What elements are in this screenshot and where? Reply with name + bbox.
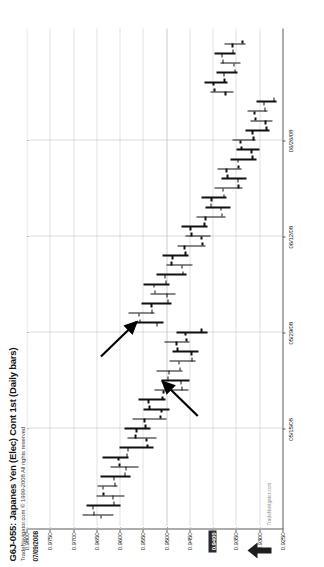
ohlc-close-tick [93, 511, 95, 515]
ohlc-close-tick [154, 290, 156, 294]
ohlc-open-tick [112, 495, 114, 499]
ohlc-close-tick [232, 49, 234, 53]
ohlc-open-tick [180, 380, 182, 384]
price-gridline [259, 28, 260, 528]
date-axis-tick [282, 428, 285, 429]
price-gridline [119, 28, 120, 528]
date-gridline [26, 331, 282, 332]
ohlc-bar [143, 408, 169, 410]
ohlc-open-tick [223, 72, 225, 76]
price-axis-label: 0.9350 [232, 532, 239, 550]
ohlc-close-tick [176, 347, 178, 351]
price-axis-label: 0.9800 [23, 532, 30, 550]
ohlc-bar [250, 120, 271, 122]
watermark-label: TradeNavigator.com [266, 482, 271, 525]
price-gridline [49, 28, 50, 528]
plot-area[interactable] [26, 28, 283, 529]
price-axis[interactable]: 0.98000.97500.97000.96500.96000.95500.95… [26, 529, 282, 567]
date-axis-tick [282, 140, 285, 141]
chart-copyright: TradeNavigator.com © 1999-2008 All right… [18, 261, 26, 561]
ohlc-bar [177, 245, 205, 247]
ohlc-bar [166, 264, 192, 266]
date-axis-label: 06/26/08 [286, 129, 293, 152]
ohlc-close-tick [144, 424, 146, 428]
ohlc-bar [102, 456, 128, 458]
price-axis-label: 0.9650 [92, 532, 99, 550]
price-axis-label: 0.9700 [69, 532, 76, 550]
ohlc-open-tick [225, 168, 227, 172]
ohlc-close-tick [113, 501, 115, 505]
date-axis[interactable]: 05/15/0805/29/0806/12/0806/26/08 [282, 29, 308, 529]
ohlc-open-tick [92, 505, 94, 509]
ohlc-open-tick [162, 390, 164, 394]
price-gridline [142, 28, 143, 528]
ohlc-open-tick [125, 466, 127, 470]
ohlc-open-tick [100, 515, 102, 519]
ohlc-close-tick [148, 405, 150, 409]
ohlc-open-tick [175, 341, 177, 345]
ohlc-bar [154, 389, 188, 391]
ohlc-close-tick [159, 415, 161, 419]
ohlc-open-tick [253, 111, 255, 115]
ohlc-close-tick [264, 107, 266, 111]
ohlc-open-tick [220, 207, 222, 211]
ohlc-open-tick [178, 361, 180, 365]
ohlc-close-tick [252, 136, 254, 140]
date-axis-tick [282, 332, 285, 333]
ohlc-close-tick [167, 299, 169, 303]
ohlc-close-tick [200, 328, 202, 332]
price-axis-label: 0.9450 [185, 532, 192, 550]
up-arrow-icon[interactable] [246, 539, 272, 561]
ohlc-bar [236, 148, 258, 150]
ohlc-close-tick [234, 69, 236, 73]
ohlc-bar [82, 514, 114, 516]
ohlc-close-tick [241, 40, 243, 44]
ohlc-bar [185, 235, 210, 237]
ohlc-open-tick [251, 130, 253, 134]
ohlc-close-tick [165, 280, 167, 284]
ohlc-open-tick [147, 399, 149, 403]
ohlc-open-tick [231, 43, 233, 47]
ohlc-close-tick [181, 386, 183, 390]
ohlc-bar [96, 495, 124, 497]
ohlc-close-tick [124, 472, 126, 476]
date-gridline [26, 235, 282, 236]
ohlc-close-tick [251, 155, 253, 159]
ohlc-open-tick [145, 438, 147, 442]
ohlc-close-tick [221, 213, 223, 217]
ohlc-open-tick [127, 447, 129, 451]
ohlc-close-tick [170, 261, 172, 265]
ohlc-close-tick [167, 376, 169, 380]
ohlc-open-tick [237, 178, 239, 182]
ohlc-open-tick [168, 370, 170, 374]
ohlc-close-tick [102, 492, 104, 496]
ohlc-close-tick [237, 184, 239, 188]
ohlc-bar [161, 379, 189, 381]
ohlc-open-tick [264, 120, 266, 124]
ohlc-open-tick [184, 332, 186, 336]
ohlc-close-tick [222, 59, 224, 63]
ohlc-open-tick [150, 303, 152, 307]
ohlc-open-tick [113, 476, 115, 480]
ohlc-open-tick [263, 101, 265, 105]
ohlc-close-tick [182, 271, 184, 275]
price-gridline [26, 28, 27, 528]
ohlc-close-tick [223, 194, 225, 198]
ohlc-open-tick [221, 53, 223, 57]
price-gridline [96, 28, 97, 528]
ohlc-close-tick [190, 232, 192, 236]
price-axis-label: 0.9750 [46, 532, 53, 550]
date-gridline [26, 427, 282, 428]
ohlc-open-tick [160, 409, 162, 413]
price-gridline [235, 28, 236, 528]
price-gridline [212, 28, 213, 528]
ohlc-close-tick [179, 367, 181, 371]
date-axis-tick [282, 236, 285, 237]
ohlc-close-tick [223, 78, 225, 82]
ohlc-open-tick [210, 197, 212, 201]
ohlc-close-tick [146, 444, 148, 448]
ohlc-open-tick [222, 188, 224, 192]
ohlc-bar [127, 437, 156, 439]
chart-screenshot: G6J-055: Japanes Yen (Elec) Cont 1st (Da… [0, 0, 324, 567]
ohlc-open-tick [183, 245, 185, 249]
